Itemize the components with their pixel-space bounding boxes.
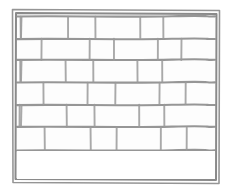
drawing-canvas xyxy=(0,0,231,196)
bed-joint xyxy=(17,126,215,127)
brick-wall-illustration xyxy=(0,0,231,196)
head-joint-edge xyxy=(21,105,22,127)
bed-joint xyxy=(17,38,215,39)
head-joint-edge xyxy=(21,61,22,82)
head-joint-edge xyxy=(21,17,22,38)
bed-joint xyxy=(17,59,215,60)
bed-joint xyxy=(17,16,215,17)
empty-band xyxy=(17,151,215,179)
